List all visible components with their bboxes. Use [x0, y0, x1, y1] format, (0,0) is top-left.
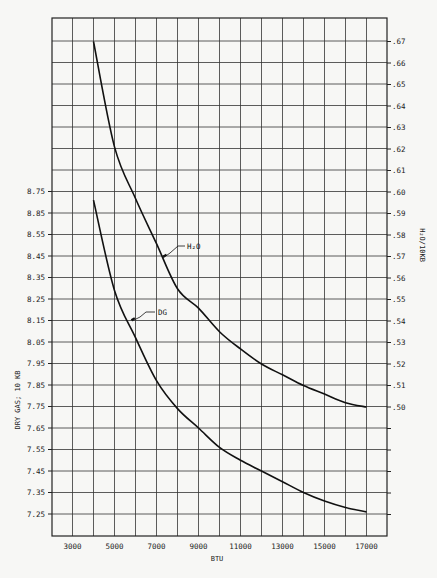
h2o-curve [94, 42, 367, 408]
y-tick-label: 7.25 [27, 510, 45, 519]
y-tick-label: 7.65 [27, 424, 45, 433]
y2-tick-label: .62 [392, 145, 406, 154]
y2-tick-label: .66 [392, 59, 406, 68]
y-tick-label: 8.55 [27, 230, 45, 239]
y-axis-title: DRY GAS; 10 KB [14, 370, 22, 429]
y2-tick-label: .59 [392, 209, 406, 218]
y-tick-label: 8.05 [27, 338, 45, 347]
y-tick-label: 8.35 [27, 273, 45, 282]
x-tick-label: 9000 [189, 542, 208, 551]
y-tick-label: 7.45 [27, 467, 45, 476]
y-tick-label: 7.75 [27, 402, 45, 411]
x-tick-label: 11000 [229, 542, 252, 551]
y2-tick-label: .64 [392, 102, 406, 111]
y2-tick-label: .54 [392, 317, 406, 326]
x-tick-label: 13000 [271, 542, 294, 551]
y-tick-label: 8.25 [27, 295, 45, 304]
y-tick-label: 8.85 [27, 209, 45, 218]
dg-curve [94, 200, 367, 512]
y-tick-label: 8.75 [27, 187, 45, 196]
y2-axis-title: H₂O/10KB [418, 228, 426, 262]
x-tick-label: 3000 [63, 542, 82, 551]
y2-tick-label: .67 [392, 37, 406, 46]
left-axis-ticks: 8.758.858.558.458.358.258.158.057.957.85… [27, 187, 52, 518]
x-tick-label: 17000 [355, 542, 378, 551]
y2-tick-label: .50 [392, 403, 406, 412]
y2-tick-label: .58 [392, 231, 406, 240]
y2-tick-label: .61 [392, 166, 406, 175]
y2-tick-label: .65 [392, 80, 406, 89]
y-tick-label: 7.95 [27, 359, 45, 368]
x-tick-label: 15000 [313, 542, 336, 551]
x-tick-label: 7000 [147, 542, 166, 551]
y-tick-label: 7.85 [27, 381, 45, 390]
chart: 8.758.858.558.458.358.258.158.057.957.85… [0, 0, 437, 578]
y-tick-label: 7.35 [27, 488, 45, 497]
y2-tick-label: .60 [392, 188, 406, 197]
y-tick-label: 8.45 [27, 252, 45, 261]
y-tick-label: 8.15 [27, 316, 45, 325]
y2-tick-label: .56 [392, 274, 406, 283]
x-axis-title: BTU [211, 555, 224, 563]
y2-tick-label: .55 [392, 295, 406, 304]
x-axis-ticks: 300050007000900011000130001500017000 [63, 542, 378, 551]
dg-curve-label: DG [158, 308, 168, 317]
y2-tick-label: .57 [392, 252, 406, 261]
h2o-curve-label: H₂O [187, 242, 201, 251]
right-axis-ticks: .67.66.65.64.63.62.61.60.59.58.57.56.55.… [387, 37, 406, 514]
x-tick-label: 5000 [105, 542, 124, 551]
y2-tick-label: .63 [392, 123, 406, 132]
y-tick-label: 7.55 [27, 445, 45, 454]
grid-lines [52, 18, 387, 536]
y2-tick-label: .53 [392, 338, 406, 347]
y2-tick-label: .52 [392, 360, 406, 369]
y2-tick-label: .51 [392, 381, 406, 390]
